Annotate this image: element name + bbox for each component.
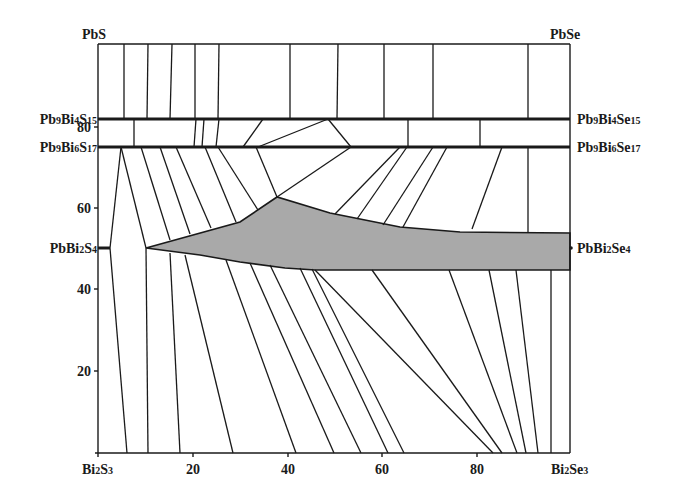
x-tick-60: 60: [375, 462, 389, 477]
label-pb9bi6se17: Pb9Bi6Se17: [577, 140, 641, 155]
corner-label-pbse: PbSe: [550, 27, 580, 42]
y-tick-20: 20: [77, 364, 91, 379]
pbbi2se4-dot: [569, 246, 573, 250]
corner-label-pbs: PbS: [82, 27, 106, 42]
x-label-bi2s3: Bi2S3: [82, 462, 113, 477]
shaded-region: [146, 197, 570, 270]
x-label-bi2se3: Bi2Se3: [551, 462, 588, 477]
label-pbbi2se4: PbBi2Se4: [577, 241, 631, 256]
x-tick-20: 20: [186, 462, 200, 477]
label-pbbi2s4: PbBi2S4: [50, 241, 97, 256]
phase-diagram: PbS PbSe Pb9Bi4S15 Pb9Bi6S17 PbBi2S4 Pb9…: [0, 0, 679, 503]
x-tick-80: 80: [470, 462, 484, 477]
y-tick-40: 40: [77, 282, 91, 297]
y-tick-80: 80: [77, 120, 91, 135]
label-pb9bi4se15: Pb9Bi4Se15: [577, 112, 641, 127]
label-pb9bi6s17: Pb9Bi6S17: [40, 140, 97, 155]
x-tick-40: 40: [281, 462, 295, 477]
y-tick-60: 60: [77, 201, 91, 216]
